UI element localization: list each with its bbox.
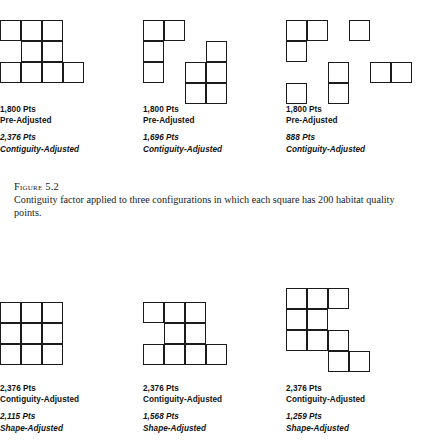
- configuration-row-top: 1,800 Pts Pre-Adjusted 2,376 Pts Contigu…: [0, 0, 434, 175]
- shape-panel-c: 2,376 Pts Contiguity-Adjusted 1,259 Pts …: [286, 240, 434, 448]
- habitat-square: [143, 302, 164, 323]
- habitat-square: [21, 20, 42, 41]
- habitat-square: [286, 20, 307, 41]
- habitat-square: [21, 302, 42, 323]
- shape-adjusted-value-a: 2,115 Pts: [0, 411, 143, 422]
- habitat-square: [286, 309, 307, 330]
- habitat-square: [0, 302, 21, 323]
- habitat-square: [143, 20, 164, 41]
- pre-adjusted-group-a: 1,800 Pts Pre-Adjusted: [0, 104, 143, 126]
- labels-b: 1,800 Pts Pre-Adjusted 1,696 Pts Contigu…: [143, 104, 286, 155]
- habitat-square: [185, 83, 206, 104]
- habitat-square: [164, 20, 185, 41]
- habitat-square: [164, 344, 185, 365]
- habitat-square: [21, 62, 42, 83]
- habitat-square: [391, 62, 412, 83]
- habitat-square: [206, 83, 227, 104]
- habitat-square: [63, 62, 84, 83]
- habitat-square: [42, 323, 63, 344]
- pre-adjusted-value-c: 1,800 Pts: [286, 104, 434, 115]
- habitat-square: [0, 323, 21, 344]
- habitat-square: [328, 83, 349, 104]
- square-grid-c: [286, 20, 412, 104]
- habitat-square: [185, 302, 206, 323]
- contiguity-adjusted-value-c: 888 Pts: [286, 132, 434, 143]
- contiguity-adjusted-group-b: 1,696 Pts Contiguity-Adjusted: [143, 132, 286, 154]
- pre-adjusted-group-b: 1,800 Pts Pre-Adjusted: [143, 104, 286, 126]
- labels-c: 1,800 Pts Pre-Adjusted 888 Pts Contiguit…: [286, 104, 434, 155]
- square-grid-shape-b: [143, 302, 227, 365]
- figure-caption: Figure 5.2 Contiguity factor applied to …: [14, 180, 424, 219]
- habitat-square: [286, 330, 307, 351]
- habitat-square: [286, 41, 307, 62]
- contiguity-adjusted-group-shape-c: 2,376 Pts Contiguity-Adjusted: [286, 383, 434, 405]
- habitat-square: [206, 62, 227, 83]
- habitat-square: [0, 20, 21, 41]
- contiguity-adjusted-caption-shape-b: Contiguity-Adjusted: [143, 394, 286, 405]
- habitat-square: [349, 351, 370, 372]
- habitat-square: [143, 344, 164, 365]
- habitat-square: [307, 330, 328, 351]
- habitat-square: [0, 344, 21, 365]
- shape-adjusted-value-c: 1,259 Pts: [286, 411, 434, 422]
- contiguity-adjusted-group-shape-a: 2,376 Pts Contiguity-Adjusted: [0, 383, 143, 405]
- configuration-panel-c: 1,800 Pts Pre-Adjusted 888 Pts Contiguit…: [286, 0, 434, 175]
- contiguity-adjusted-value-a: 2,376 Pts: [0, 132, 143, 143]
- shape-adjusted-caption-a: Shape-Adjusted: [0, 423, 143, 434]
- shape-panel-b: 2,376 Pts Contiguity-Adjusted 1,568 Pts …: [143, 240, 286, 448]
- configuration-row-bottom: 2,376 Pts Contiguity-Adjusted 2,115 Pts …: [0, 240, 434, 448]
- contiguity-adjusted-caption-shape-a: Contiguity-Adjusted: [0, 394, 143, 405]
- habitat-square: [21, 41, 42, 62]
- habitat-square: [42, 344, 63, 365]
- pre-adjusted-caption-c: Pre-Adjusted: [286, 115, 434, 126]
- figure-page: 1,800 Pts Pre-Adjusted 2,376 Pts Contigu…: [0, 0, 434, 448]
- contiguity-adjusted-caption-shape-c: Contiguity-Adjusted: [286, 394, 434, 405]
- habitat-square: [164, 323, 185, 344]
- contiguity-adjusted-group-c: 888 Pts Contiguity-Adjusted: [286, 132, 434, 154]
- contiguity-adjusted-caption-a: Contiguity-Adjusted: [0, 144, 143, 155]
- habitat-square: [42, 62, 63, 83]
- figure-number: Figure 5.2: [14, 180, 424, 193]
- shape-adjusted-caption-c: Shape-Adjusted: [286, 423, 434, 434]
- shape-adjusted-value-b: 1,568 Pts: [143, 411, 286, 422]
- square-grid-b: [143, 20, 227, 104]
- figure-number-text: Figure 5.2: [14, 181, 59, 192]
- square-grid-shape-a: [0, 302, 63, 365]
- habitat-square: [370, 62, 391, 83]
- habitat-square: [307, 288, 328, 309]
- labels-a: 1,800 Pts Pre-Adjusted 2,376 Pts Contigu…: [0, 104, 143, 155]
- contiguity-adjusted-caption-b: Contiguity-Adjusted: [143, 144, 286, 155]
- habitat-square: [206, 344, 227, 365]
- pre-adjusted-value-a: 1,800 Pts: [0, 104, 143, 115]
- habitat-square: [21, 323, 42, 344]
- shape-panel-a: 2,376 Pts Contiguity-Adjusted 2,115 Pts …: [0, 240, 143, 448]
- habitat-square: [185, 323, 206, 344]
- shape-adjusted-caption-b: Shape-Adjusted: [143, 423, 286, 434]
- square-grid-shape-c: [286, 288, 370, 372]
- habitat-square: [286, 288, 307, 309]
- shape-adjusted-group-b: 1,568 Pts Shape-Adjusted: [143, 411, 286, 433]
- habitat-square: [328, 62, 349, 83]
- shape-adjusted-group-a: 2,115 Pts Shape-Adjusted: [0, 411, 143, 433]
- square-grid-a: [0, 20, 84, 83]
- configuration-panel-a: 1,800 Pts Pre-Adjusted 2,376 Pts Contigu…: [0, 0, 143, 175]
- habitat-square: [21, 344, 42, 365]
- habitat-square: [328, 330, 349, 351]
- contiguity-adjusted-value-shape-b: 2,376 Pts: [143, 383, 286, 394]
- habitat-square: [42, 41, 63, 62]
- habitat-square: [164, 302, 185, 323]
- habitat-square: [42, 302, 63, 323]
- habitat-square: [0, 62, 21, 83]
- labels-shape-b: 2,376 Pts Contiguity-Adjusted 1,568 Pts …: [143, 383, 286, 434]
- habitat-square: [307, 309, 328, 330]
- habitat-square: [206, 41, 227, 62]
- pre-adjusted-caption-a: Pre-Adjusted: [0, 115, 143, 126]
- contiguity-adjusted-value-b: 1,696 Pts: [143, 132, 286, 143]
- habitat-square: [286, 83, 307, 104]
- habitat-square: [185, 62, 206, 83]
- habitat-square: [349, 20, 370, 41]
- labels-shape-c: 2,376 Pts Contiguity-Adjusted 1,259 Pts …: [286, 383, 434, 434]
- habitat-square: [42, 20, 63, 41]
- habitat-square: [307, 20, 328, 41]
- contiguity-adjusted-group-shape-b: 2,376 Pts Contiguity-Adjusted: [143, 383, 286, 405]
